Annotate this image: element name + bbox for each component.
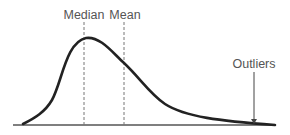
outliers-label: Outliers (232, 57, 275, 71)
mean-label: Mean (109, 8, 140, 22)
skewed-distribution-diagram: Median Mean Outliers (0, 0, 290, 135)
median-label: Median (64, 8, 105, 22)
distribution-curve (23, 38, 275, 125)
